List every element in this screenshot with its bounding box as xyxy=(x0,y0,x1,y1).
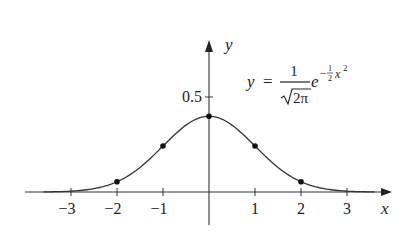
formula-denominator: 2π xyxy=(293,90,309,106)
formula-exp-num: 1 xyxy=(328,64,332,73)
y-axis-label: y xyxy=(223,35,233,54)
data-point xyxy=(252,143,258,149)
y-axis-arrow-icon xyxy=(205,40,213,52)
x-tick-label: 3 xyxy=(343,200,351,217)
x-tick-label: −1 xyxy=(150,200,167,217)
x-tick-label: −3 xyxy=(58,200,75,217)
data-point xyxy=(298,179,304,185)
x-tick-label: −2 xyxy=(104,200,121,217)
x-axis-label: x xyxy=(380,199,389,218)
x-tick-label: 1 xyxy=(251,200,259,217)
y-tick-label: 0.5 xyxy=(182,88,202,105)
x-tick-label: 2 xyxy=(297,200,305,217)
x-axis-arrow-icon xyxy=(381,188,392,196)
tick-labels: −3−2−11230.5 xyxy=(58,88,351,217)
data-point xyxy=(160,143,166,149)
formula-equals: = xyxy=(263,72,273,91)
formula-exp-sign: − xyxy=(320,66,327,80)
formula-base-e: e xyxy=(311,72,319,91)
formula-exp-den: 2 xyxy=(328,74,332,83)
data-point xyxy=(206,113,212,119)
formula-numerator: 1 xyxy=(290,63,298,79)
formula-annotation: y = 1 2π e − 1 2 x 2 xyxy=(245,63,348,106)
formula-lhs: y xyxy=(245,72,255,91)
data-point xyxy=(114,179,120,185)
normal-distribution-chart: −3−2−11230.5 y = 1 2π e − 1 2 x 2 y x xyxy=(0,0,414,233)
formula-exp-var: x xyxy=(334,67,341,81)
formula-exp-power: 2 xyxy=(343,63,348,73)
